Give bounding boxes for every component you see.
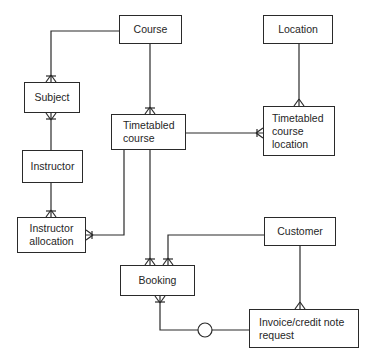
entity-tcl-label: Timetabled course location [272,112,324,151]
entity-invoice-label: Invoice/credit note request [259,316,344,342]
entity-course: Course [119,15,182,44]
line-course-subject [51,31,119,82]
entity-course-label: Course [134,23,168,36]
entity-instructor-allocation-label: Instructor allocation [29,222,73,248]
entity-location-label: Location [278,23,318,36]
entity-location: Location [263,15,333,44]
line-customer-booking [168,235,264,265]
entity-timetabled-course-location: Timetabled course location [263,106,335,156]
optional-circle-icon [198,323,212,337]
entity-customer-label: Customer [277,225,323,238]
entity-customer: Customer [264,217,336,246]
entity-instructor-allocation: Instructor allocation [17,217,86,253]
entity-subject: Subject [24,82,80,113]
entity-invoice-credit-note-request: Invoice/credit note request [249,309,359,348]
line-tc-allocation [86,150,124,235]
entity-instructor: Instructor [22,150,83,183]
entity-instructor-label: Instructor [31,160,75,173]
entity-timetabled-course: Timetabled course [111,114,186,150]
entity-subject-label: Subject [34,91,69,104]
entity-timetabled-course-label: Timetabled course [123,119,175,145]
entity-booking-label: Booking [139,274,177,287]
entity-booking: Booking [120,265,195,296]
er-diagram: Course Location Subject Timetabled cours… [0,0,374,364]
line-booking-invoice [160,296,198,330]
